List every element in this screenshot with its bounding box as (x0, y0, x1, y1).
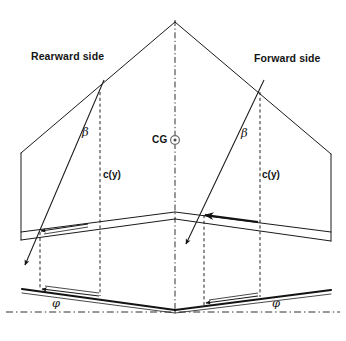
forward-side-label: Forward side (254, 53, 321, 64)
cg-marker-dot (174, 139, 177, 142)
left-dihedral-edge (22, 289, 175, 310)
caption-artifact-strip (0, 325, 346, 341)
figure-root: Rearward side Forward side CG β β c(y) c… (0, 0, 346, 341)
chord-left-label: c(y) (103, 170, 121, 180)
right-dihedral-edge (175, 290, 331, 310)
chord-right-label: c(y) (262, 170, 280, 180)
phi-right-label: φ (272, 298, 280, 310)
left-mid-dimension-arrow (41, 224, 88, 231)
phi-left-label: φ (52, 298, 60, 310)
beta-right-label: β (241, 128, 248, 140)
left-phi-dimension-arrow-tail (45, 286, 99, 293)
cg-label: CG (152, 135, 167, 145)
beta-left-label: β (82, 127, 89, 139)
right-mid-dimension-arrow (205, 215, 258, 222)
right-leading-edge (175, 22, 331, 154)
rearward-side-label: Rearward side (31, 51, 104, 62)
right-beta-ray (186, 80, 264, 244)
left-beta-ray (25, 80, 104, 265)
